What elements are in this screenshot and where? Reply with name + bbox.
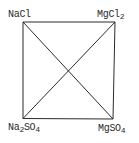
edge-right	[113, 22, 115, 119]
edge-bottom	[23, 119, 113, 120]
label-nacl: NaCl	[8, 10, 31, 20]
label-na2so4: Na2SO4	[8, 123, 40, 133]
label-mgso4: MgSO4	[98, 124, 125, 134]
square-diagram	[0, 0, 139, 143]
label-mgcl2: MgCl2	[97, 10, 124, 20]
